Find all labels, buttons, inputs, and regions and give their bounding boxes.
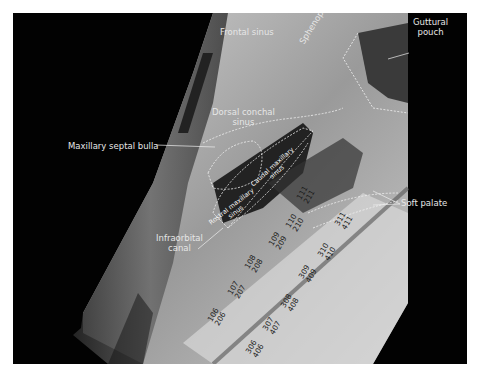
label-maxillary-septal-bulla: Maxillary septal bulla (68, 141, 158, 151)
label-guttural-line2: pouch (413, 27, 448, 37)
label-infraorbital-canal: Infraorbital canal (156, 233, 203, 253)
radiograph-image (13, 13, 467, 364)
label-dorsal-conchal-line2: sinus (212, 117, 275, 127)
label-guttural-line1: Guttural (413, 17, 448, 27)
label-dorsal-conchal-sinus: Dorsal conchal sinus (212, 107, 275, 127)
label-infraorbital-line1: Infraorbital (156, 233, 203, 243)
label-guttural-pouch: Guttural pouch (413, 17, 448, 37)
radiograph-figure: Frontal sinus Sphenopalatine sinus Guttu… (13, 13, 467, 364)
label-infraorbital-line2: canal (156, 243, 203, 253)
label-dorsal-conchal-line1: Dorsal conchal (212, 107, 275, 117)
label-frontal-sinus: Frontal sinus (220, 27, 274, 37)
label-soft-palate: Soft palate (401, 198, 447, 208)
